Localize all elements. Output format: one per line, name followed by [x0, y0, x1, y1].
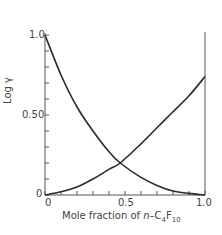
axes — [45, 32, 205, 195]
x-axis-title: Mole fraction of n–C4F10 — [62, 210, 181, 224]
x-tick-label-end: 1.0 — [196, 198, 212, 208]
series-decreasing-line — [45, 35, 205, 195]
x-tick-label-mid: 0.5 — [118, 198, 134, 208]
series-increasing-line — [45, 77, 205, 195]
y-axis-title-text: Log γ — [2, 77, 13, 104]
x-axis-title-c: –C — [150, 210, 162, 221]
y-axis-title: Log γ — [2, 77, 13, 104]
y-tick-label-zero: 0 — [36, 189, 42, 199]
y-tick-label-mid: 0.50 — [22, 110, 44, 120]
y-tick-label-top: 1.0 — [29, 30, 45, 40]
tick-marks — [45, 35, 205, 195]
x-axis-title-prefix: Mole fraction of — [62, 210, 143, 221]
x-axis-title-sub10: 10 — [172, 216, 181, 224]
x-tick-label-zero: 0 — [45, 198, 51, 208]
